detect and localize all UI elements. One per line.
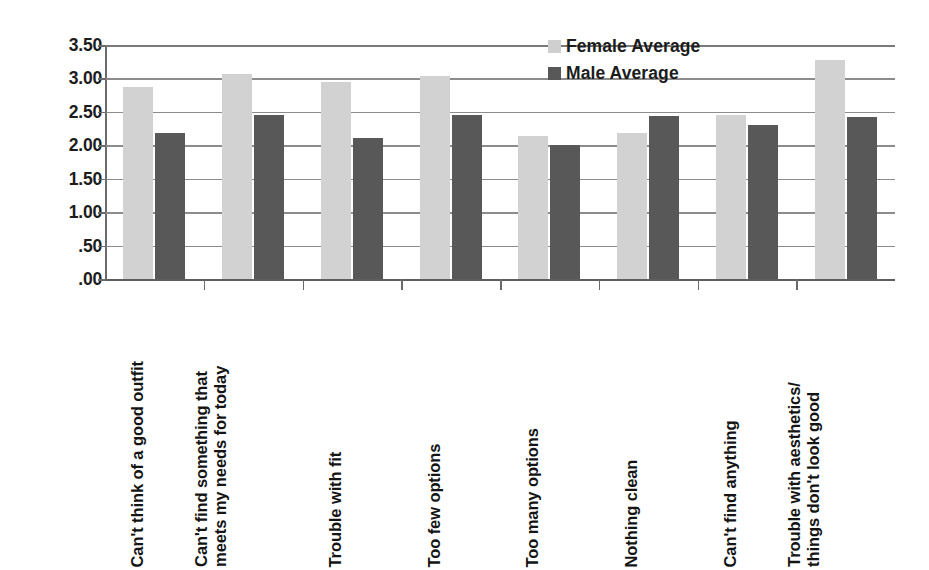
y-axis-tick-mark: [98, 279, 106, 281]
x-axis-label-slot: Too many options: [500, 292, 599, 567]
y-axis-tick-label: 2.00: [69, 135, 102, 156]
x-axis-category-label: Trouble with fit: [325, 451, 343, 567]
bar-male: [550, 145, 580, 279]
x-axis-label-line: Can't find something that: [192, 371, 210, 567]
legend-label-male: Male Average: [566, 63, 679, 84]
x-axis-category-label: Can't find something thatmeets my needs …: [192, 366, 231, 567]
legend-swatch-male-icon: [548, 67, 561, 80]
bar-chart: 3.503.002.502.001.501.00.50.00 Female Av…: [0, 0, 929, 570]
chart-legend: Female Average Male Average: [548, 33, 778, 87]
bar-male: [649, 116, 679, 279]
x-axis-tick-mark: [500, 279, 502, 290]
x-axis-label-slot: Can't think of a good outfit: [105, 292, 204, 567]
x-axis-label-line: Nothing clean: [622, 459, 640, 567]
legend-item-female: Female Average: [548, 33, 778, 60]
bar-group: [105, 45, 204, 279]
y-axis-tick-label: 2.50: [69, 101, 102, 122]
y-axis-labels: 3.503.002.502.001.501.00.50.00: [30, 30, 102, 310]
bar-group: [796, 45, 895, 279]
y-axis-tick-label: 1.00: [69, 202, 102, 223]
bar-female: [815, 60, 845, 279]
x-axis-category-label: Nothing clean: [622, 459, 640, 567]
x-axis-label-line: Trouble with aesthetics/: [785, 382, 803, 567]
x-axis-label-line: Trouble with fit: [325, 451, 343, 567]
bar-female: [716, 115, 746, 279]
x-axis-tick-mark: [401, 279, 403, 290]
legend-label-female: Female Average: [566, 36, 700, 57]
x-axis-category-label: Can't find anything: [720, 420, 738, 567]
y-axis-tick-label: 3.50: [69, 35, 102, 56]
x-axis-label-slot: Can't find anything: [698, 292, 797, 567]
legend-swatch-female-icon: [548, 40, 561, 53]
bar-group: [303, 45, 402, 279]
x-axis-category-label: Too few options: [424, 443, 442, 567]
x-axis-tick-mark: [698, 279, 700, 290]
x-axis-label-slot: Trouble with aesthetics/things don't loo…: [796, 292, 895, 567]
bar-male: [254, 115, 284, 279]
y-axis-tick-label: 3.00: [69, 68, 102, 89]
bar-group: [401, 45, 500, 279]
x-axis-label-slot: Can't find something thatmeets my needs …: [204, 292, 303, 567]
x-axis-label-slot: Trouble with fit: [303, 292, 402, 567]
x-axis-label-line: Too few options: [424, 443, 442, 567]
bar-male: [353, 138, 383, 279]
x-axis-tick-mark: [303, 279, 305, 290]
y-axis-tick-label: 1.50: [69, 168, 102, 189]
x-axis-label-line: Can't find anything: [720, 420, 738, 567]
x-axis-label-line: Can't think of a good outfit: [128, 361, 146, 567]
bar-male: [452, 115, 482, 279]
x-axis-category-label: Trouble with aesthetics/things don't loo…: [785, 382, 824, 567]
x-axis-tick-mark: [599, 279, 601, 290]
x-axis-label-line: meets my needs for today: [212, 366, 231, 567]
bar-female: [617, 133, 647, 279]
bar-group: [204, 45, 303, 279]
legend-item-male: Male Average: [548, 60, 778, 87]
x-axis-category-label: Can't think of a good outfit: [128, 361, 146, 567]
x-axis-label-line: Too many options: [523, 428, 541, 567]
x-axis-category-label: Too many options: [523, 428, 541, 567]
bar-female: [321, 82, 351, 279]
bar-female: [222, 74, 252, 279]
bar-male: [847, 117, 877, 279]
bar-female: [518, 136, 548, 279]
bar-female: [420, 76, 450, 279]
bar-male: [748, 125, 778, 279]
x-axis-category-labels: Can't think of a good outfitCan't find s…: [105, 292, 895, 567]
x-axis-tick-mark: [796, 279, 798, 290]
bar-female: [123, 87, 153, 279]
x-axis-label-slot: Nothing clean: [599, 292, 698, 567]
x-axis-label-line: things don't look good: [804, 382, 823, 567]
x-axis-tick-mark: [204, 279, 206, 290]
bar-male: [155, 133, 185, 279]
x-axis-label-slot: Too few options: [401, 292, 500, 567]
